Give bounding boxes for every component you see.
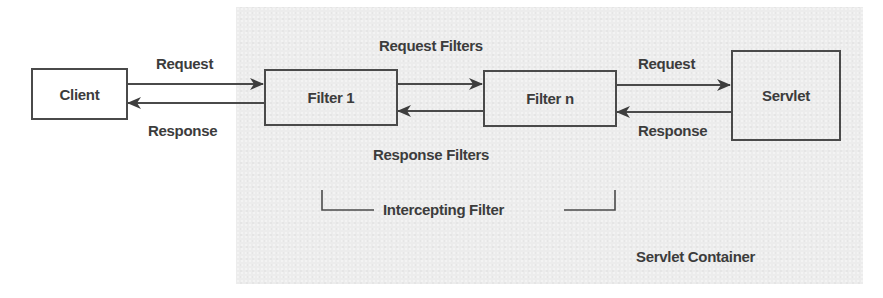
servlet-node: Servlet [731, 50, 841, 141]
intercepting-filter-label: Intercepting Filter [383, 202, 504, 217]
filter-n-label: Filter n [526, 90, 574, 107]
client-request-label: Request [156, 56, 213, 71]
filter-1-node: Filter 1 [264, 69, 398, 126]
client-node: Client [31, 68, 128, 120]
servlet-container-label: Servlet Container [636, 249, 755, 264]
servlet-response-label: Response [638, 123, 707, 138]
filter-1-label: Filter 1 [308, 89, 355, 106]
filter-n-node: Filter n [483, 70, 617, 127]
servlet-label: Servlet [762, 87, 810, 104]
client-label: Client [60, 86, 100, 103]
servlet-request-label: Request [638, 56, 695, 71]
servlet-container-region [236, 7, 863, 284]
request-filters-label: Request Filters [379, 38, 483, 53]
client-response-label: Response [148, 123, 217, 138]
response-filters-label: Response Filters [373, 147, 489, 162]
intercepting-filter-diagram: Client Filter 1 Filter n Servlet Request… [0, 0, 883, 298]
